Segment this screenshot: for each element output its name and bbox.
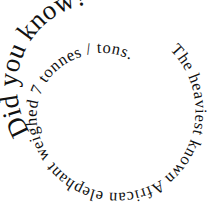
spiral-text-svg: Did you know? The heaviest known African… — [0, 0, 212, 204]
fact-body-textpath: The heaviest known African elephant weig… — [21, 38, 210, 204]
fact-body-text: The heaviest known African elephant weig… — [21, 38, 210, 204]
spiral-fact-graphic: Did you know? The heaviest known African… — [0, 0, 212, 204]
